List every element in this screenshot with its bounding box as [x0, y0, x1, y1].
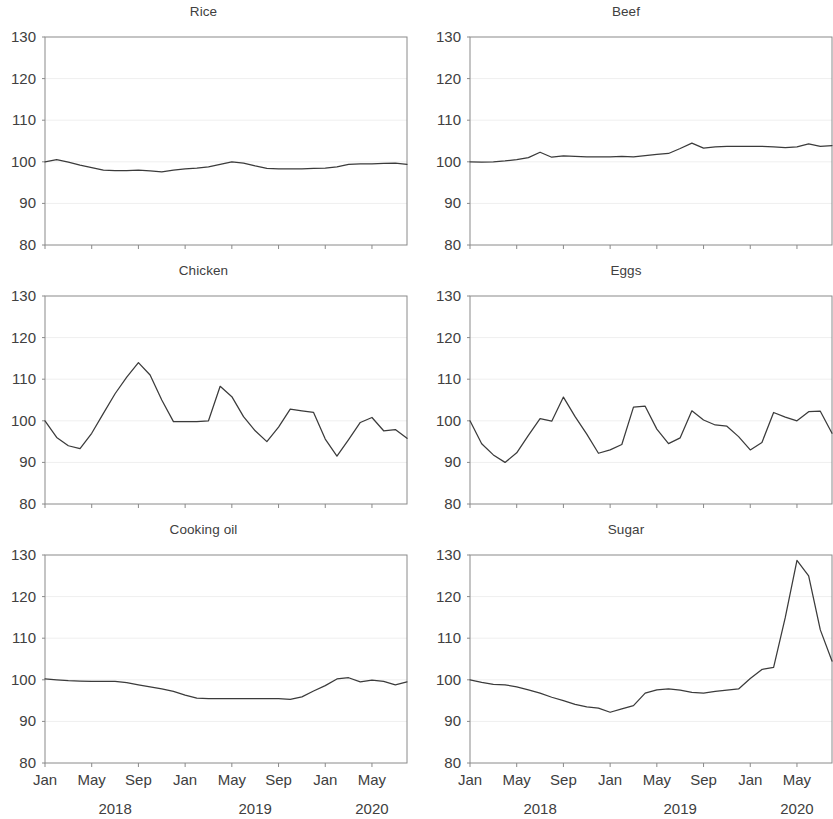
chart-title-beef: Beef: [420, 4, 832, 19]
y-axis-label: 130: [436, 287, 461, 304]
y-axis-label: 80: [19, 236, 36, 253]
plot-border: [470, 555, 832, 763]
x-axis-label: May: [358, 771, 387, 788]
x-axis-label: Sep: [690, 771, 717, 788]
chart-panel-beef: Beef1301201101009080: [420, 4, 833, 254]
x-axis-label: Sep: [125, 771, 152, 788]
y-axis-label: 120: [11, 70, 36, 87]
plot-area-cooking-oil: 1301201101009080JanMaySepJanMaySepJanMay…: [0, 522, 429, 819]
y-axis-label: 110: [12, 111, 36, 128]
y-axis-label: 100: [436, 412, 461, 429]
chart-panel-chicken: Chicken1301201101009080: [0, 263, 429, 513]
y-axis-label: 120: [11, 588, 36, 605]
data-series-beef: [470, 143, 832, 162]
x-axis-label: May: [643, 771, 672, 788]
y-axis-label: 120: [436, 70, 461, 87]
y-axis-label: 100: [436, 153, 461, 170]
y-axis-label: 90: [19, 453, 36, 470]
y-axis-label: 120: [436, 329, 461, 346]
y-axis-label: 80: [19, 495, 36, 512]
y-axis-label: 80: [444, 236, 461, 253]
y-axis-label: 80: [19, 754, 36, 771]
plot-area-eggs: 1301201101009080: [420, 263, 833, 513]
y-axis-label: 80: [444, 754, 461, 771]
y-axis-label: 130: [436, 546, 461, 563]
x-axis-label: May: [783, 771, 812, 788]
y-axis-label: 90: [19, 194, 36, 211]
y-axis-label: 110: [437, 370, 461, 387]
plot-border: [470, 296, 832, 504]
x-axis-year-label: 2019: [239, 800, 272, 817]
chart-panel-eggs: Eggs1301201101009080: [420, 263, 833, 513]
y-axis-label: 110: [12, 629, 36, 646]
x-axis-label: May: [218, 771, 247, 788]
y-axis-label: 100: [436, 671, 461, 688]
chart-panel-cooking-oil: Cooking oil1301201101009080JanMaySepJanM…: [0, 522, 429, 819]
y-axis-label: 110: [437, 629, 461, 646]
x-axis-year-label: 2018: [98, 800, 131, 817]
data-series-cooking-oil: [45, 678, 407, 700]
plot-border: [45, 37, 407, 245]
chart-title-chicken: Chicken: [0, 263, 407, 278]
y-axis-label: 100: [11, 412, 36, 429]
x-axis-label: Jan: [738, 771, 762, 788]
x-axis-label: Jan: [598, 771, 622, 788]
x-axis-label: Jan: [458, 771, 482, 788]
chart-title-cooking-oil: Cooking oil: [0, 522, 407, 537]
y-axis-label: 130: [436, 28, 461, 45]
figure-root: Rice1301201101009080Beef1301201101009080…: [0, 0, 833, 819]
y-axis-label: 100: [11, 671, 36, 688]
plot-area-chicken: 1301201101009080: [0, 263, 429, 513]
y-axis-label: 110: [437, 111, 461, 128]
y-axis-label: 80: [444, 495, 461, 512]
y-axis-label: 90: [444, 194, 461, 211]
x-axis-year-label: 2020: [780, 800, 813, 817]
chart-title-eggs: Eggs: [420, 263, 832, 278]
plot-area-rice: 1301201101009080: [0, 4, 429, 254]
x-axis-year-label: 2019: [664, 800, 697, 817]
y-axis-label: 90: [19, 712, 36, 729]
y-axis-label: 110: [12, 370, 36, 387]
x-axis-label: Sep: [265, 771, 292, 788]
chart-panel-sugar: Sugar1301201101009080JanMaySepJanMaySepJ…: [420, 522, 833, 819]
x-axis-label: May: [78, 771, 107, 788]
y-axis-label: 120: [436, 588, 461, 605]
plot-border: [470, 37, 832, 245]
x-axis-label: May: [503, 771, 532, 788]
x-axis-label: Sep: [550, 771, 577, 788]
plot-area-sugar: 1301201101009080JanMaySepJanMaySepJanMay…: [420, 522, 833, 819]
chart-title-rice: Rice: [0, 4, 407, 19]
data-series-chicken: [45, 363, 407, 457]
y-axis-label: 130: [11, 546, 36, 563]
x-axis-year-label: 2018: [523, 800, 556, 817]
y-axis-label: 120: [11, 329, 36, 346]
plot-border: [45, 296, 407, 504]
y-axis-label: 130: [11, 287, 36, 304]
data-series-sugar: [470, 560, 832, 712]
data-series-eggs: [470, 397, 832, 462]
x-axis-label: Jan: [33, 771, 57, 788]
y-axis-label: 100: [11, 153, 36, 170]
y-axis-label: 90: [444, 453, 461, 470]
x-axis-label: Jan: [313, 771, 337, 788]
chart-panel-rice: Rice1301201101009080: [0, 4, 429, 254]
plot-border: [45, 555, 407, 763]
y-axis-label: 130: [11, 28, 36, 45]
chart-title-sugar: Sugar: [420, 522, 832, 537]
x-axis-label: Jan: [173, 771, 197, 788]
y-axis-label: 90: [444, 712, 461, 729]
x-axis-year-label: 2020: [355, 800, 388, 817]
plot-area-beef: 1301201101009080: [420, 4, 833, 254]
